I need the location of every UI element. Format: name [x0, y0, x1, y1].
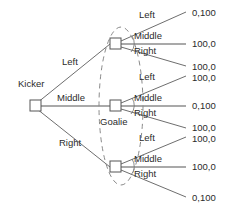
- goalie-top-action-label-right: Right: [134, 46, 156, 56]
- goalie-middle-action-label-middle: Middle: [134, 93, 162, 103]
- goalie-bottom-action-label-middle: Middle: [134, 154, 162, 164]
- goalie-node-middle[interactable]: [110, 100, 121, 111]
- kicker-action-label-left: Left: [62, 57, 78, 67]
- payoff-label-5: 0,100: [192, 101, 216, 111]
- kicker-action-label-middle: Middle: [57, 93, 85, 103]
- payoff-label-1: 0,100: [192, 8, 216, 18]
- goalie-bottom-branches: [121, 137, 186, 197]
- payoff-label-2: 100,0: [192, 39, 216, 49]
- kicker-player-label: Kicker: [18, 79, 44, 89]
- kicker-action-label-right: Right: [59, 138, 81, 148]
- payoff-label-4: 100,0: [192, 73, 216, 83]
- goalie-bottom-action-label-left: Left: [139, 133, 155, 143]
- payoff-label-9: 0,100: [192, 193, 216, 203]
- goalie-middle-action-label-right: Right: [134, 108, 156, 118]
- kicker-node[interactable]: [30, 100, 41, 111]
- payoff-label-3: 100,0: [192, 62, 216, 72]
- goalie-bottom-action-label-right: Right: [134, 169, 156, 179]
- payoff-label-8: 100,0: [192, 162, 216, 172]
- goalie-node-top[interactable]: [110, 38, 121, 49]
- payoff-label-6: 100,0: [192, 123, 216, 133]
- payoff-label-7: 100,0: [192, 134, 216, 144]
- goalie-top-action-label-middle: Middle: [134, 31, 162, 41]
- goalie-node-bottom[interactable]: [110, 161, 121, 172]
- goalie-player-label: Goalie: [100, 117, 127, 127]
- goalie-middle-action-label-left: Left: [139, 72, 155, 82]
- goalie-top-action-label-left: Left: [139, 10, 155, 20]
- game-tree-figure: Kicker Goalie Left Middle Right Left Mid…: [0, 0, 225, 211]
